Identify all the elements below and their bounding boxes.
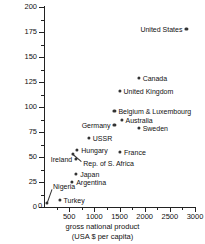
data-point-label: Germany bbox=[82, 122, 111, 129]
y-axis-tick bbox=[39, 157, 44, 158]
data-point-label: Rep. of S. Africa bbox=[83, 160, 134, 167]
x-axis-tick-label: 3000 bbox=[187, 213, 204, 221]
y-axis-minor-tick bbox=[41, 145, 44, 146]
y-axis-minor-tick bbox=[41, 45, 44, 46]
x-axis-tick-label: 1000 bbox=[86, 213, 103, 221]
data-point-label: Turkey bbox=[64, 197, 85, 204]
y-axis-title-line2: (million BTU annually per capita) bbox=[6, 0, 15, 24]
data-point-label: Japan bbox=[80, 171, 99, 178]
y-axis-tick-label: 0 bbox=[33, 203, 37, 211]
x-axis-title-line2: (USA $ per capita) bbox=[0, 232, 205, 242]
data-point-label: Australia bbox=[126, 117, 153, 124]
x-axis-title: gross national product (USA $ per capita… bbox=[0, 222, 205, 241]
data-point bbox=[118, 89, 121, 92]
y-axis-tick-label: 200 bbox=[24, 3, 37, 11]
y-axis-tick-label: 25 bbox=[29, 178, 37, 186]
x-axis-minor-tick bbox=[132, 207, 133, 210]
y-axis-title: commercial energy consumption (million B… bbox=[0, 0, 15, 24]
x-axis-tick-label: 0 bbox=[38, 202, 42, 210]
x-axis-tick-label: 1500 bbox=[111, 213, 128, 221]
x-axis-tick-label: 2000 bbox=[136, 213, 153, 221]
y-axis-minor-tick bbox=[41, 70, 44, 71]
data-point-label: United States bbox=[140, 26, 182, 33]
data-point bbox=[137, 126, 140, 129]
y-axis-tick-label: 50 bbox=[29, 153, 37, 161]
data-point bbox=[87, 136, 90, 139]
data-point-label: Canada bbox=[143, 75, 168, 82]
y-axis-tick-label: 150 bbox=[24, 53, 37, 61]
data-point bbox=[75, 157, 78, 160]
y-axis-tick bbox=[39, 132, 44, 133]
data-point-label: Argentina bbox=[76, 179, 106, 186]
data-point-label: Hungary bbox=[81, 147, 107, 154]
y-axis-minor-tick bbox=[41, 170, 44, 171]
x-axis-minor-tick bbox=[182, 207, 183, 210]
data-point bbox=[113, 123, 116, 126]
data-point-label: Ireland bbox=[51, 156, 72, 163]
data-point-label: Belgium & Luxembourg bbox=[118, 108, 191, 115]
x-axis-minor-tick bbox=[57, 207, 58, 210]
y-axis-tick bbox=[39, 107, 44, 108]
data-point-label: United Kingdom bbox=[124, 88, 174, 95]
data-point bbox=[76, 148, 79, 151]
data-point bbox=[113, 109, 116, 112]
y-axis-minor-tick bbox=[41, 195, 44, 196]
y-axis-tick-label: 175 bbox=[24, 28, 37, 36]
data-point bbox=[58, 198, 61, 201]
y-axis-minor-tick bbox=[41, 95, 44, 96]
x-axis-title-line1: gross national product bbox=[0, 222, 205, 232]
plot-area: 0255075100125150175200050010001500200025… bbox=[44, 7, 195, 207]
data-point bbox=[137, 76, 140, 79]
data-point-label: USSR bbox=[93, 135, 112, 142]
y-axis-tick bbox=[39, 7, 44, 8]
y-axis-tick bbox=[39, 32, 44, 33]
y-axis-minor-tick bbox=[41, 20, 44, 21]
scatter-chart-figure: 0255075100125150175200050010001500200025… bbox=[0, 0, 205, 244]
x-axis-minor-tick bbox=[157, 207, 158, 210]
x-axis-minor-tick bbox=[107, 207, 108, 210]
leader-line bbox=[47, 189, 53, 203]
data-point bbox=[118, 150, 121, 153]
data-point bbox=[120, 118, 123, 121]
y-axis-tick-label: 100 bbox=[24, 103, 37, 111]
x-axis-minor-tick bbox=[82, 207, 83, 210]
y-axis-tick-label: 75 bbox=[29, 128, 37, 136]
x-axis-tick-label: 500 bbox=[63, 213, 76, 221]
y-axis-minor-tick bbox=[41, 120, 44, 121]
data-point bbox=[75, 172, 78, 175]
data-point-label: Nigeria bbox=[53, 183, 75, 190]
y-axis-tick-label: 125 bbox=[24, 78, 37, 86]
data-point-label: France bbox=[124, 149, 146, 156]
data-point-label: Sweden bbox=[143, 125, 168, 132]
y-axis-tick bbox=[39, 57, 44, 58]
data-point bbox=[185, 27, 188, 30]
y-axis-tick bbox=[39, 182, 44, 183]
x-axis-tick-label: 2500 bbox=[161, 213, 178, 221]
y-axis-tick bbox=[39, 82, 44, 83]
